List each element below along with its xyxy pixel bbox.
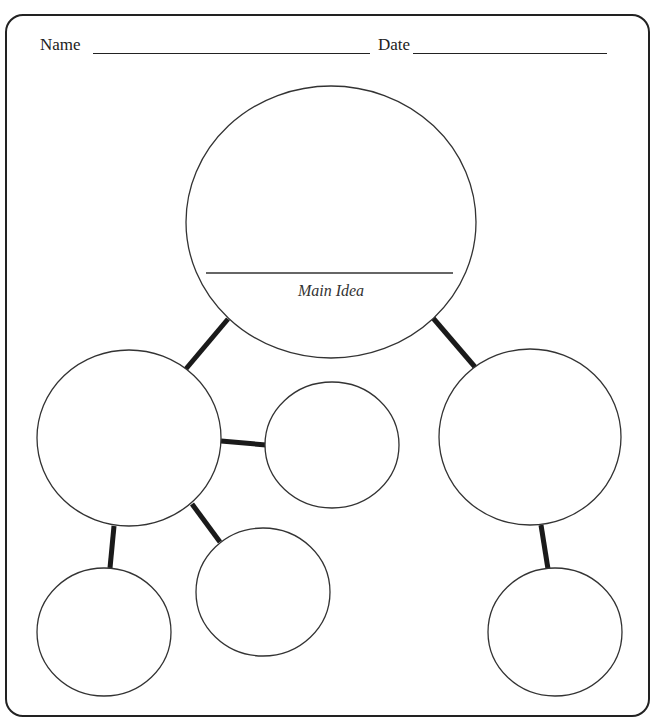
main-idea-circle[interactable] bbox=[186, 86, 476, 358]
connector-main-right bbox=[433, 318, 475, 367]
connector-left-to-bottom-middle bbox=[192, 504, 220, 542]
left-sub-bottom-middle-circle[interactable] bbox=[196, 528, 330, 656]
left-sub-bottom-left-circle[interactable] bbox=[37, 568, 171, 696]
concept-web-diagram bbox=[0, 0, 658, 726]
main-idea-label: Main Idea bbox=[231, 282, 431, 300]
connector-right-to-bottom-right bbox=[541, 525, 548, 569]
left-sub-right-circle[interactable] bbox=[265, 382, 399, 508]
connector-left-to-small-right bbox=[221, 441, 266, 445]
right-detail-circle[interactable] bbox=[439, 349, 621, 525]
connector-left-to-bottom-left bbox=[110, 526, 114, 568]
connector-main-left bbox=[185, 319, 228, 370]
left-detail-circle[interactable] bbox=[37, 350, 221, 526]
right-sub-bottom-circle[interactable] bbox=[488, 568, 622, 696]
